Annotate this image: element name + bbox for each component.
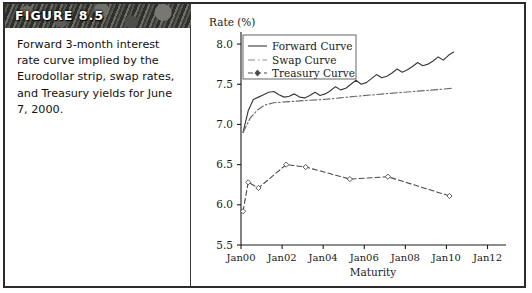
y-axis-title-group: Rate (%) [209, 16, 255, 28]
y-tick-label: 5.5 [216, 239, 233, 251]
chart-column: Rate (%) 5.56.06.57.07.58.0 Jan00Jan02Ja… [191, 4, 526, 286]
x-tick-label: Jan10 [431, 252, 461, 263]
y-tick-label: 7.0 [216, 118, 233, 130]
x-tick-label: Jan06 [349, 252, 379, 263]
series-marker [246, 180, 251, 185]
x-axis-title: Maturity [350, 266, 397, 278]
y-axis-title: Rate (%) [209, 16, 255, 28]
chart-legend: Forward Curve Swap Curve Treasury Curve [243, 35, 356, 79]
figure-banner: FIGURE 8.5 [5, 4, 191, 28]
x-tick-label: Jan02 [267, 252, 297, 263]
x-tick-label: Jan00 [225, 252, 255, 263]
y-tick-label: 6.5 [216, 158, 233, 170]
legend-label-swap: Swap Curve [272, 54, 336, 66]
caption-column: FIGURE 8.5 Forward 3-month interest rate… [5, 4, 191, 286]
y-tick-label: 6.0 [216, 198, 233, 210]
x-tick-group: Jan00Jan02Jan04Jan06Jan08Jan10Jan12 [225, 245, 502, 263]
series-marker [303, 164, 308, 169]
series-marker [347, 176, 352, 181]
x-tick-label: Jan04 [308, 252, 338, 263]
legend-label-treasury: Treasury Curve [272, 67, 355, 79]
y-tick-label: 8.0 [216, 38, 233, 50]
series-marker [385, 174, 390, 179]
series-line [243, 165, 449, 212]
y-tick-label: 7.5 [216, 78, 233, 90]
figure-frame: FIGURE 8.5 Forward 3-month interest rate… [3, 2, 526, 288]
figure-number-label: FIGURE 8.5 [15, 8, 104, 23]
figure-caption: Forward 3-month interest rate curve impl… [17, 37, 177, 118]
series-marker [447, 193, 452, 198]
legend-label-forward: Forward Curve [272, 40, 352, 52]
x-tick-label: Jan08 [390, 252, 420, 263]
series-line [243, 88, 453, 132]
rate-curve-chart: Rate (%) 5.56.06.57.07.58.0 Jan00Jan02Ja… [191, 4, 526, 286]
x-tick-label: Jan12 [472, 252, 502, 263]
y-tick-group: 5.56.06.57.07.58.0 [216, 38, 241, 251]
